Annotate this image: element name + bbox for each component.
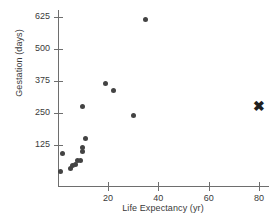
data-point <box>83 136 88 141</box>
x-axis-tick <box>259 182 260 191</box>
data-point <box>60 151 65 156</box>
y-axis-tick-label: 250 <box>20 107 50 117</box>
y-axis-tick <box>54 145 63 146</box>
data-point-x-marker: ✖ <box>253 99 265 113</box>
x-axis-tick-label: 80 <box>246 193 272 203</box>
x-axis-tick-label: 40 <box>145 193 171 203</box>
x-axis-label: Life Expectancy (yr) <box>58 203 268 213</box>
x-axis-tick-label: 60 <box>196 193 222 203</box>
x-axis-tick <box>209 182 210 191</box>
y-axis-label: Gestation (days) <box>14 8 24 118</box>
y-axis-tick <box>54 49 63 50</box>
y-axis-tick-label: 375 <box>20 75 50 85</box>
data-point <box>80 104 85 109</box>
y-axis-tick-label: 625 <box>20 11 50 21</box>
y-axis-spine <box>58 10 59 186</box>
data-point <box>131 113 136 118</box>
data-point <box>58 169 63 174</box>
data-point <box>78 158 83 163</box>
x-axis-tick <box>158 182 159 191</box>
x-axis-spine <box>58 186 269 187</box>
x-axis-tick <box>108 182 109 191</box>
y-axis-tick-label: 500 <box>20 43 50 53</box>
data-point <box>143 17 148 22</box>
scatter-plot-figure: Gestation (days) Life Expectancy (yr) 12… <box>0 0 277 224</box>
x-axis-tick-label: 20 <box>95 193 121 203</box>
y-axis-tick <box>54 113 63 114</box>
y-axis-tick-label: 125 <box>20 139 50 149</box>
y-axis-tick <box>54 81 63 82</box>
data-point <box>103 81 108 86</box>
data-point <box>111 88 116 93</box>
y-axis-tick <box>54 17 63 18</box>
